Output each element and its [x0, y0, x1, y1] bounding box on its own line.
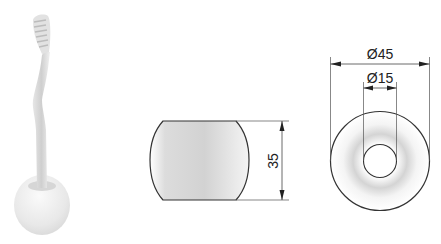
outer-diameter-label: Ø45	[367, 46, 394, 62]
side-view: 35	[150, 121, 289, 200]
inner-hole	[364, 145, 397, 178]
technical-drawing: 35 Ø45 Ø15	[0, 0, 441, 244]
inner-diameter-label: Ø15	[367, 70, 394, 86]
side-view-body	[150, 121, 249, 200]
top-view: Ø45 Ø15	[331, 46, 430, 211]
arrow-right-icon	[387, 86, 397, 91]
arrow-left-icon	[364, 86, 374, 91]
arrow-left-icon	[331, 62, 342, 67]
arrow-right-icon	[419, 62, 430, 67]
arrow-down-icon	[280, 190, 285, 200]
toothbrush-handle	[33, 52, 50, 188]
arrow-up-icon	[280, 121, 285, 131]
height-dimension-label: 35	[265, 153, 281, 169]
product-photo	[14, 15, 70, 235]
